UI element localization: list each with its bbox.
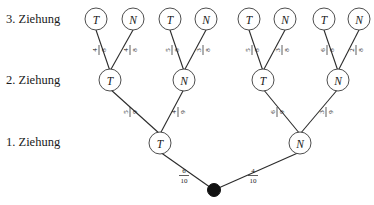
prob-nt-to-t: 5 8 (244, 45, 262, 55)
prob-nt-to-n-denominator: 8 (283, 48, 291, 52)
prob-tn-to-n-denominator: 8 (204, 48, 212, 52)
prob-tn-to-t-denominator: 8 (173, 48, 181, 52)
prob-t-to-tn-denominator: 9 (179, 110, 187, 114)
prob-n-to-nt-numerator: 6 (269, 110, 277, 114)
prob-nn-to-t-numerator: 6 (319, 48, 327, 52)
node-level3-8: N (348, 8, 370, 30)
prob-t-to-tt-denominator: 9 (131, 110, 139, 114)
prob-n-to-nt-denominator: 9 (278, 110, 286, 114)
branch-root-to-n (214, 152, 300, 190)
prob-nn-to-n-numerator: 2 (348, 48, 356, 52)
prob-t-to-tt-numerator: 5 (122, 110, 130, 114)
prob-root-to-n: 4 10 (248, 167, 258, 185)
prob-tt-to-t-numerator: 4 (91, 48, 99, 52)
node-level2-nn-label: N (333, 75, 343, 87)
prob-n-to-nn-denominator: 9 (327, 110, 335, 114)
stage-label-3: 3. Ziehung (6, 12, 61, 26)
prob-tt-to-n-denominator: 8 (131, 48, 139, 52)
prob-tt-to-t-denominator: 8 (100, 48, 108, 52)
prob-nt-to-t-denominator: 8 (253, 48, 261, 52)
prob-n-to-nn-numerator: 3 (318, 110, 326, 114)
node-level3-8-label: N (354, 14, 364, 26)
prob-nn-to-t-denominator: 8 (328, 48, 336, 52)
node-level3-2: N (122, 8, 144, 30)
prob-root-to-n-numerator: 4 (251, 167, 255, 175)
prob-root-to-n-denominator: 10 (250, 177, 258, 185)
prob-tn-to-n-numerator: 3 (195, 48, 203, 52)
prob-root-to-t-numerator: 6 (182, 167, 186, 175)
prob-t-to-tt: 5 9 (122, 107, 140, 117)
node-level1-t: T (149, 132, 171, 154)
node-level3-5: T (238, 8, 260, 30)
node-level1-n: N (289, 132, 311, 154)
prob-nn-to-n-denominator: 8 (357, 48, 365, 52)
node-level3-3: T (159, 8, 181, 30)
prob-tt-to-t: 4 8 (91, 45, 109, 55)
prob-nt-to-t-numerator: 5 (244, 48, 252, 52)
prob-nt-to-n-numerator: 3 (274, 48, 282, 52)
prob-t-to-tn: 4 9 (170, 107, 188, 117)
node-level3-6: N (274, 8, 296, 30)
node-level3-7: T (313, 8, 335, 30)
node-level3-1: T (85, 8, 107, 30)
prob-root-to-t-denominator: 10 (181, 177, 189, 185)
prob-tn-to-t-numerator: 5 (164, 48, 172, 52)
node-level3-6-label: N (280, 14, 290, 26)
stage-label-1: 1. Ziehung (6, 135, 61, 149)
node-level3-4-label: N (201, 14, 211, 26)
node-level2-tn: N (173, 69, 195, 91)
node-level3-4: N (195, 8, 217, 30)
node-level2-tn-label: N (179, 75, 189, 87)
root-node-dot (208, 184, 221, 197)
prob-root-to-t: 6 10 (179, 167, 189, 185)
prob-n-to-nn: 3 9 (318, 107, 336, 117)
node-level1-n-label: N (295, 138, 305, 150)
node-level2-nn: N (327, 69, 349, 91)
probability-tree-diagram: 3. Ziehung 2. Ziehung 1. Ziehung T N T N… (0, 0, 374, 205)
node-level2-nt: T (252, 69, 274, 91)
node-level2-tt: T (99, 69, 121, 91)
prob-nn-to-t: 6 8 (319, 45, 337, 55)
prob-tt-to-n-numerator: 4 (122, 48, 130, 52)
prob-t-to-tn-numerator: 4 (170, 110, 178, 114)
stage-label-2: 2. Ziehung (6, 73, 61, 87)
node-level3-2-label: N (128, 14, 138, 26)
prob-n-to-nt: 6 9 (269, 107, 287, 117)
